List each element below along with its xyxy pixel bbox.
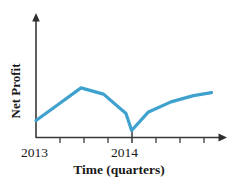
net-profit-line-chart: Net Profit 2013 2014 Time (quarters) [0, 0, 238, 186]
x-tick-label-2013: 2013 [21, 146, 48, 160]
net-profit-line [36, 88, 212, 131]
x-axis-title: Time (quarters) [44, 163, 194, 177]
x-tick-label-2014: 2014 [111, 146, 138, 160]
x-axis-arrow-icon [219, 134, 228, 142]
y-axis-title: Net Profit [9, 41, 25, 141]
y-axis-arrow-icon [32, 13, 40, 22]
